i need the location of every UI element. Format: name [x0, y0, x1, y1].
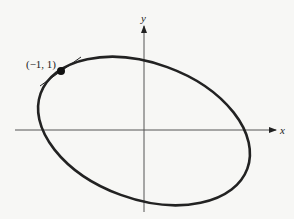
- point-label: (−1, 1): [26, 58, 56, 71]
- y-axis-label: y: [140, 12, 146, 24]
- ellipse-diagram: (−1, 1) y x: [0, 0, 294, 219]
- point-marker: [57, 67, 65, 75]
- x-axis-label: x: [279, 124, 285, 136]
